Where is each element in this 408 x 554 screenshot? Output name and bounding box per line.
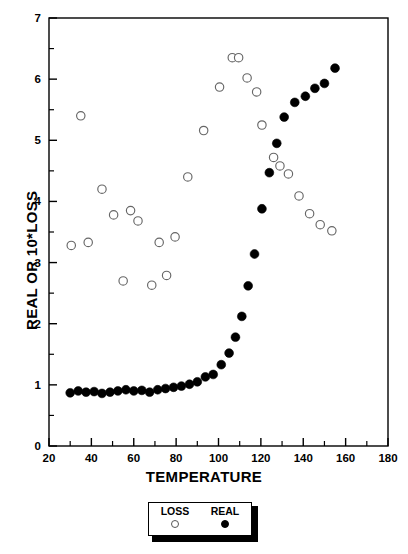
data-point-loss: [276, 162, 284, 170]
data-point-loss: [109, 211, 117, 219]
x-tick-label: 160: [336, 452, 355, 464]
y-tick-label: 5: [11, 134, 41, 146]
axis-ticks: [49, 18, 388, 446]
y-tick-label: 1: [11, 379, 41, 391]
data-point-real: [185, 380, 194, 389]
x-tick-label: 20: [43, 452, 56, 464]
y-tick-label: 4: [11, 195, 41, 207]
data-point-real: [231, 333, 240, 342]
data-point-loss: [67, 241, 75, 249]
legend-label-real: REAL: [201, 505, 249, 518]
series-loss-points: [67, 54, 336, 290]
legend-entry-real: REAL: [201, 505, 249, 528]
data-point-loss: [98, 185, 106, 193]
data-point-loss: [77, 112, 85, 120]
data-point-real: [272, 139, 281, 148]
chart-legend: LOSS REAL: [148, 502, 252, 536]
data-point-loss: [119, 277, 127, 285]
data-point-real: [320, 79, 329, 88]
data-point-real: [301, 92, 310, 101]
data-point-real: [250, 250, 259, 259]
data-point-loss: [148, 281, 156, 289]
data-point-loss: [243, 74, 251, 82]
data-point-real: [82, 388, 91, 397]
data-point-real: [113, 387, 122, 396]
data-point-real: [225, 349, 234, 358]
data-point-real: [258, 204, 267, 213]
data-point-loss: [155, 238, 163, 246]
data-point-real: [244, 281, 253, 290]
data-point-real: [106, 388, 115, 397]
data-point-loss: [284, 170, 292, 178]
y-tick-label: 6: [11, 73, 41, 85]
data-point-real: [193, 377, 202, 386]
data-point-loss: [171, 233, 179, 241]
data-point-real: [177, 382, 186, 391]
data-point-real: [169, 383, 178, 392]
data-point-real: [90, 387, 99, 396]
x-tick-label: 140: [294, 452, 313, 464]
legend-marker-filled-circle-icon: [221, 520, 229, 528]
data-point-real: [209, 370, 218, 379]
data-point-loss: [328, 227, 336, 235]
data-point-real: [153, 385, 162, 394]
data-point-loss: [162, 271, 170, 279]
y-tick-label: 2: [11, 318, 41, 330]
data-point-real: [237, 312, 246, 321]
y-tick-label: 7: [11, 12, 41, 24]
data-point-real: [122, 385, 131, 394]
x-tick-label: 180: [378, 452, 397, 464]
data-point-real: [290, 98, 299, 107]
x-tick-label: 120: [251, 452, 270, 464]
data-point-loss: [215, 83, 223, 91]
data-point-real: [74, 387, 83, 396]
data-point-loss: [316, 220, 324, 228]
data-point-real: [137, 386, 146, 395]
chart-figure: REAL OR 10*LOSS TEMPERATURE 012345672040…: [0, 0, 408, 554]
data-point-loss: [234, 54, 242, 62]
data-point-loss: [199, 126, 207, 134]
data-point-real: [280, 113, 289, 122]
data-point-real: [217, 360, 226, 369]
data-point-loss: [252, 88, 260, 96]
data-point-real: [66, 388, 75, 397]
legend-entry-loss: LOSS: [151, 505, 199, 528]
data-point-loss: [126, 206, 134, 214]
data-point-loss: [84, 238, 92, 246]
x-axis-title: TEMPERATURE: [0, 468, 408, 485]
legend-marker-open-circle-icon: [171, 520, 179, 528]
legend-label-loss: LOSS: [151, 505, 199, 518]
data-point-real: [201, 373, 210, 382]
x-tick-label: 40: [85, 452, 98, 464]
data-point-loss: [134, 217, 142, 225]
data-point-real: [145, 388, 154, 397]
y-tick-label: 3: [11, 257, 41, 269]
data-point-real: [98, 389, 107, 398]
axes-frame: [49, 18, 388, 446]
x-tick-label: 100: [209, 452, 228, 464]
x-tick-label: 60: [127, 452, 140, 464]
data-point-real: [129, 387, 138, 396]
data-point-real: [265, 168, 274, 177]
data-point-loss: [269, 153, 277, 161]
data-point-loss: [295, 192, 303, 200]
data-point-real: [311, 84, 320, 93]
data-point-real: [161, 384, 170, 393]
data-point-loss: [305, 209, 313, 217]
series-real-points: [66, 64, 340, 398]
x-tick-label: 80: [170, 452, 183, 464]
data-point-loss: [184, 173, 192, 181]
y-tick-label: 0: [11, 440, 41, 452]
data-point-loss: [258, 121, 266, 129]
data-point-real: [331, 64, 340, 73]
